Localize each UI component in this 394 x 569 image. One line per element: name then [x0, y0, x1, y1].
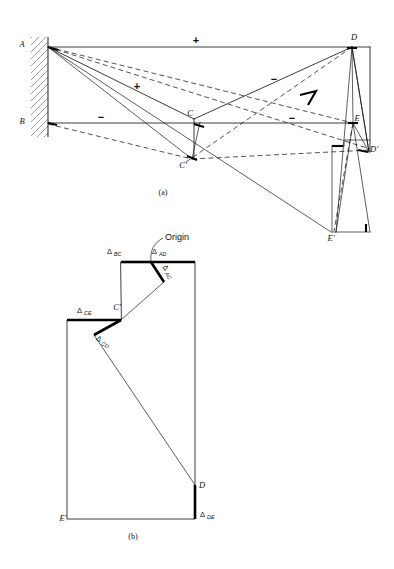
label-b-point-E-prime: E': [58, 513, 66, 523]
vector-delta-CD: [94, 320, 121, 335]
panel-a-group: A B C C' D E D' E' + + − − − (a): [18, 21, 378, 243]
sign-member-DC: −: [271, 73, 277, 85]
label-delta-BC: Δ BC: [107, 247, 122, 257]
label-delta-CD-subscript: CD: [100, 340, 110, 349]
label-joint-D-prime: D': [369, 144, 378, 154]
dashed-A-to-E: [48, 47, 353, 123]
label-joint-E-prime: E': [326, 233, 334, 243]
ray-Cprime-to-C: [192, 122, 200, 159]
label-b-point-D: D: [198, 480, 206, 490]
sign-member-CE: −: [289, 112, 295, 124]
fixed-support-hatching: [22, 21, 48, 180]
label-delta-AD: Δ AD: [152, 247, 167, 257]
vector-delta-AC: [151, 262, 164, 282]
svg-text:Δ: Δ: [107, 247, 112, 256]
label-b-point-C-prime: C': [113, 302, 121, 312]
label-delta-CE-subscript: CE: [84, 310, 92, 316]
ray-A-to-Eprime: [48, 47, 331, 232]
label-delta-BC-subscript: BC: [114, 251, 122, 257]
label-delta-CE: Δ CE: [77, 306, 92, 316]
label-joint-D: D: [350, 32, 358, 42]
line-Cprime-to-D: [94, 335, 195, 485]
label-delta-DE-subscript: DE: [207, 514, 215, 520]
dashed-A-to-Dprime: [48, 47, 370, 149]
label-joint-C: C: [187, 108, 193, 118]
label-delta-AC-subscript: AC: [163, 270, 173, 280]
svg-text:Δ: Δ: [152, 247, 157, 256]
figure-root: A B C C' D E D' E' + + − − − (a): [0, 0, 394, 569]
ray-A-to-Cprime: [48, 47, 192, 159]
accent-at-Cprime: [187, 156, 197, 160]
ray-D-to-E: [352, 47, 353, 123]
svg-text:Δ: Δ: [77, 306, 82, 315]
dashed-D-to-Cprime-extended: [186, 47, 352, 162]
label-delta-AD-subscript: AD: [158, 251, 167, 257]
member-AC: [48, 47, 194, 119]
label-delta-DE: Δ DE: [200, 510, 215, 520]
label-joint-E: E: [353, 113, 360, 123]
label-joint-C-prime: C': [179, 160, 187, 170]
ray-E-to-rightedge-bottom: [353, 123, 370, 232]
dashed-B-to-Cprime: [48, 124, 192, 159]
dashed-E-to-Eprime-construction: [334, 123, 353, 231]
svg-text:Δ: Δ: [200, 510, 205, 519]
sign-member-AC: +: [134, 80, 140, 92]
line-origin-to-Cprime: [121, 282, 164, 320]
label-joint-A: A: [18, 39, 25, 49]
label-joint-B: B: [19, 116, 24, 126]
accent-at-joint-C: [194, 124, 204, 127]
caption-panel-b: (b): [128, 532, 138, 541]
sign-member-BC: −: [98, 111, 104, 123]
panel-b-group: Origin Δ BC Δ AD Δ AC Δ CE Δ CD: [58, 232, 214, 541]
accent-mid-right-spike: [300, 91, 316, 105]
dashed-Cprime-to-Dprime: [192, 150, 370, 159]
technical-figure-svg: A B C C' D E D' E' + + − − − (a): [0, 0, 394, 569]
label-delta-CD: Δ CD: [94, 333, 112, 349]
caption-panel-a: (a): [159, 188, 168, 197]
label-origin: Origin: [165, 232, 189, 242]
sign-member-AD: +: [193, 34, 199, 46]
